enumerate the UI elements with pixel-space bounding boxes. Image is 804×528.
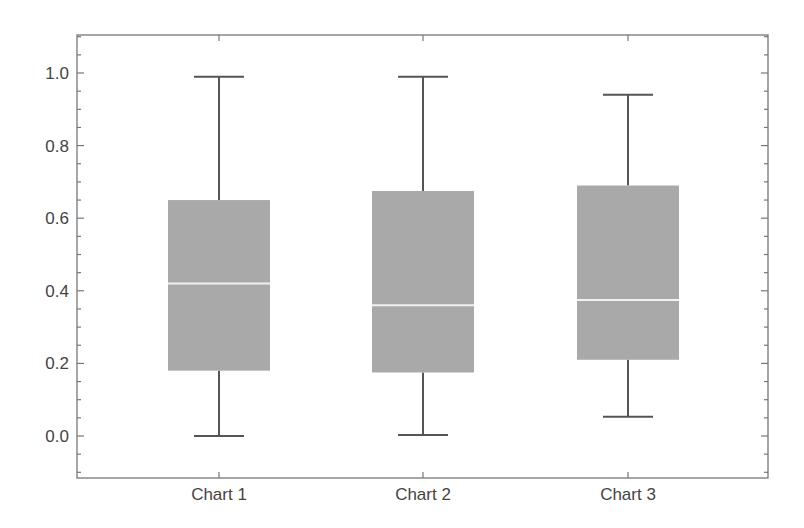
box-series xyxy=(168,77,679,436)
x-category-label: Chart 1 xyxy=(191,485,247,504)
y-tick-label: 0.8 xyxy=(45,137,69,156)
iqr-box xyxy=(577,186,679,360)
iqr-box xyxy=(372,191,474,373)
box-2 xyxy=(372,77,474,435)
y-tick-label: 0.6 xyxy=(45,209,69,228)
box-3 xyxy=(577,95,679,417)
box-plot-chart: 0.00.20.40.60.81.0 Chart 1Chart 2Chart 3 xyxy=(0,0,804,528)
x-category-label: Chart 2 xyxy=(395,485,451,504)
box-1 xyxy=(168,77,270,436)
x-category-label: Chart 3 xyxy=(600,485,656,504)
plot-area: 0.00.20.40.60.81.0 Chart 1Chart 2Chart 3 xyxy=(0,0,804,528)
y-tick-label: 0.0 xyxy=(45,427,69,446)
y-tick-label: 0.2 xyxy=(45,354,69,373)
y-tick-label: 0.4 xyxy=(45,282,69,301)
iqr-box xyxy=(168,200,270,371)
y-tick-label: 1.0 xyxy=(45,64,69,83)
